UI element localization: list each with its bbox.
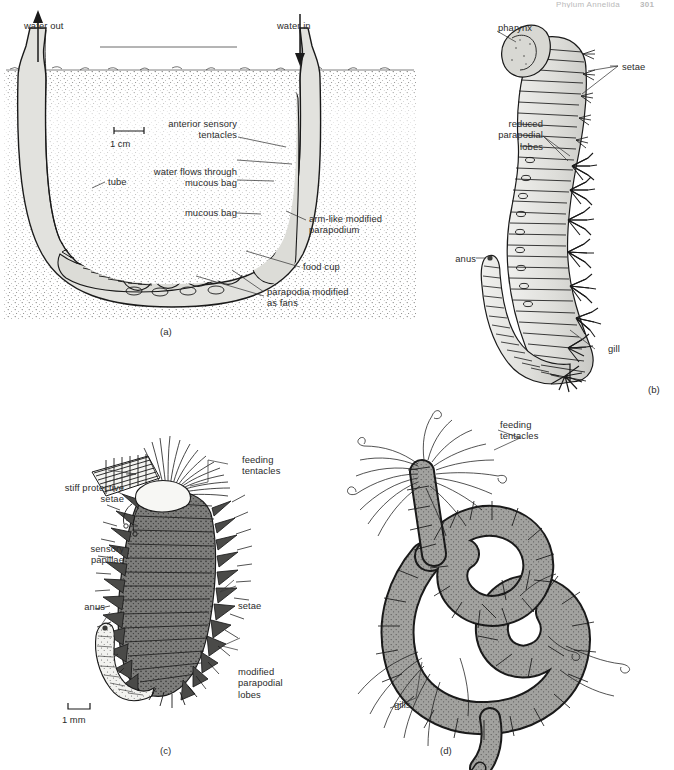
panel-caption-d: (d) <box>440 745 452 756</box>
scale-bar-1cm-label: 1 cm <box>110 138 130 149</box>
panel-caption-a: (a) <box>160 326 172 337</box>
label-feeding-tentacles-c: feeding tentacles <box>242 454 280 477</box>
label-stiff-protective-setae: stiff protective setae <box>28 482 124 505</box>
label-setae-c: setae <box>238 600 261 611</box>
scale-bar-1cm <box>112 126 148 138</box>
label-parapodia-modified-as-fans: parapodia modified as fans <box>267 286 349 309</box>
scale-bar-1mm <box>66 702 98 714</box>
label-water-out: water out <box>24 20 63 31</box>
worm-body-b <box>507 37 593 382</box>
label-gill: gill <box>608 343 620 354</box>
label-gills-d: gills <box>394 699 411 710</box>
worm-body-d <box>398 472 574 770</box>
label-anus-b: anus <box>434 253 476 264</box>
label-modified-parapodial-lobes: modified parapodial lobes <box>238 666 283 700</box>
label-food-cup: food cup <box>303 261 340 272</box>
page-number: 301 <box>640 0 666 8</box>
peristomium-c <box>136 481 191 513</box>
label-reduced-parapodial-lobes: reduced parapodial lobes <box>448 118 543 152</box>
figure-annelid-polychaetes: Phylum Annelida 301 <box>0 0 674 770</box>
label-setae-b: setae <box>622 61 645 72</box>
anus-marker-b <box>487 255 492 260</box>
label-pharynx: pharynx <box>480 22 532 33</box>
label-anus-c: anus <box>60 601 105 612</box>
label-mucous-bag: mucous bag <box>150 207 237 218</box>
label-arm-like-modified-parapodium: arm-like modified parapodium <box>309 213 382 236</box>
label-sensory-papillae: sensory papillae <box>44 543 124 566</box>
panel-caption-c: (c) <box>160 745 171 756</box>
scale-bar-1mm-label: 1 mm <box>62 714 85 725</box>
anus-marker-c <box>102 625 107 630</box>
label-tube: tube <box>108 176 127 187</box>
label-water-in: water in <box>277 20 311 31</box>
running-head: Phylum Annelida <box>556 0 626 8</box>
panel-caption-b: (b) <box>648 384 660 395</box>
label-feeding-tentacles-d: feeding tentacles <box>500 419 538 442</box>
panel-d-illustration <box>330 408 674 758</box>
